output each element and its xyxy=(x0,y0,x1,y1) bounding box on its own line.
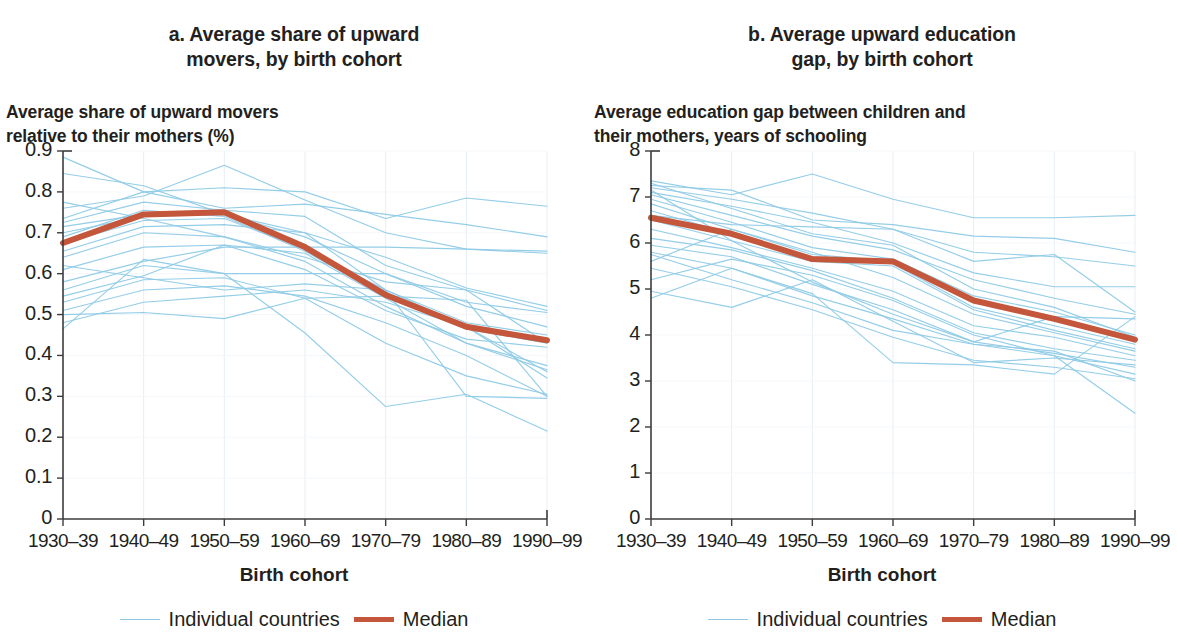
panel-b-legend-individual: Individual countries xyxy=(708,608,928,631)
panel-b-x-axis-caption: Birth cohort xyxy=(588,564,1176,586)
y-axis-tick-label: 3 xyxy=(588,368,640,391)
panel-b-legend-median-label: Median xyxy=(991,608,1057,631)
panel-a-title-line1: a. Average share of upward xyxy=(0,22,588,47)
panel-a-legend: Individual countries Median xyxy=(0,608,588,631)
y-axis-tick-label: 7 xyxy=(588,184,640,207)
panel-a-legend-individual: Individual countries xyxy=(120,608,340,631)
panel-a-axis-note: Average share of upward movers relative … xyxy=(0,88,588,148)
panel-a-x-axis-caption: Birth cohort xyxy=(0,564,588,586)
thick-line-swatch-icon xyxy=(354,617,394,622)
panel-b-legend-individual-label: Individual countries xyxy=(757,608,928,631)
panel-b-axis-note-line1: Average education gap between children a… xyxy=(594,100,1176,124)
panel-b-svg xyxy=(588,144,1176,544)
y-axis-tick-label: 0.2 xyxy=(0,424,52,447)
panel-a-legend-median-label: Median xyxy=(403,608,469,631)
y-axis-tick-label: 0.1 xyxy=(0,465,52,488)
y-axis-tick-label: 5 xyxy=(588,276,640,299)
panel-a-title: a. Average share of upward movers, by bi… xyxy=(0,16,588,72)
line-swatch-icon xyxy=(708,619,748,620)
y-axis-tick-label: 0.7 xyxy=(0,220,52,243)
panel-a-axis-note-line1: Average share of upward movers xyxy=(6,100,588,124)
panel-b-legend: Individual countries Median xyxy=(588,608,1176,631)
y-axis-tick-label: 0.4 xyxy=(0,342,52,365)
y-axis-tick-label: 2 xyxy=(588,414,640,437)
panel-b-title: b. Average upward education gap, by birt… xyxy=(588,16,1176,72)
y-axis-tick-label: 0.3 xyxy=(0,383,52,406)
panel-b: b. Average upward education gap, by birt… xyxy=(588,0,1176,643)
y-axis-tick-label: 1 xyxy=(588,460,640,483)
y-axis-tick-label: 0.6 xyxy=(0,261,52,284)
y-axis-tick-label: 0 xyxy=(588,506,640,529)
x-axis-tick-label: 1990–99 xyxy=(1085,530,1177,552)
panel-b-plot-area: 012345678 1930–391940–491950–591960–6919… xyxy=(588,144,1176,544)
y-axis-tick-label: 0.9 xyxy=(0,138,52,161)
panel-a: a. Average share of upward movers, by bi… xyxy=(0,0,588,643)
panel-a-title-line2: movers, by birth cohort xyxy=(0,47,588,72)
panel-a-svg xyxy=(0,144,588,544)
y-axis-tick-label: 6 xyxy=(588,230,640,253)
y-axis-tick-label: 0.5 xyxy=(0,302,52,325)
line-swatch-icon xyxy=(120,619,160,620)
y-axis-tick-label: 4 xyxy=(588,322,640,345)
panel-a-legend-median: Median xyxy=(354,608,469,631)
panel-b-title-line2: gap, by birth cohort xyxy=(588,47,1176,72)
panel-a-plot-area: 00.10.20.30.40.50.60.70.80.9 1930–391940… xyxy=(0,144,588,544)
panel-b-title-line1: b. Average upward education xyxy=(588,22,1176,47)
panel-a-legend-individual-label: Individual countries xyxy=(169,608,340,631)
thick-line-swatch-icon xyxy=(942,617,982,622)
y-axis-tick-label: 0.8 xyxy=(0,179,52,202)
panel-b-axis-note: Average education gap between children a… xyxy=(588,88,1176,148)
panel-b-legend-median: Median xyxy=(942,608,1057,631)
y-axis-tick-label: 0 xyxy=(0,506,52,529)
y-axis-tick-label: 8 xyxy=(588,138,640,161)
x-axis-tick-label: 1990–99 xyxy=(497,530,597,552)
figure-two-panel-chart: a. Average share of upward movers, by bi… xyxy=(0,0,1177,643)
